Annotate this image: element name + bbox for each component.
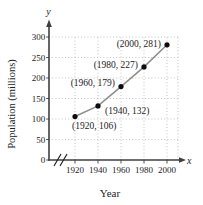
data-point bbox=[72, 114, 77, 119]
x-axis-title: Year bbox=[100, 187, 121, 199]
data-point bbox=[118, 84, 123, 89]
y-tick-label: 150 bbox=[32, 94, 46, 104]
data-point bbox=[141, 64, 146, 69]
y-tick-label: 0 bbox=[41, 155, 46, 165]
y-tick-label: 200 bbox=[32, 73, 46, 83]
point-label: (1920, 106) bbox=[72, 121, 116, 132]
y-tick-label: 300 bbox=[32, 32, 46, 42]
y-axis-arrowhead bbox=[46, 20, 52, 28]
y-axis-title: Population (millions) bbox=[6, 59, 18, 149]
x-tick-label: 1940 bbox=[89, 165, 108, 175]
y-tick-label: 50 bbox=[36, 135, 46, 145]
grid-layer bbox=[49, 37, 178, 160]
y-tick-label: 100 bbox=[32, 114, 46, 124]
point-label: (1960, 179) bbox=[71, 78, 115, 89]
point-label: (1980, 227) bbox=[94, 60, 138, 71]
data-point bbox=[164, 42, 169, 47]
point-label-layer: (1920, 106)(1940, 132)(1960, 179)(1980, … bbox=[71, 39, 161, 132]
x-axis-arrowhead bbox=[179, 157, 186, 163]
y-axis-letter: y bbox=[45, 6, 51, 17]
figure: 05010015020025030019201940196019802000 (… bbox=[0, 0, 203, 205]
x-axis-letter: x bbox=[186, 155, 192, 166]
x-tick-label: 1960 bbox=[112, 165, 131, 175]
point-label: (2000, 281) bbox=[117, 39, 161, 50]
x-tick-label: 1980 bbox=[135, 165, 154, 175]
tick-layer: 05010015020025030019201940196019802000 bbox=[32, 32, 177, 175]
point-label: (1940, 132) bbox=[105, 106, 149, 117]
population-chart-svg: 05010015020025030019201940196019802000 (… bbox=[0, 0, 203, 205]
x-tick-label: 1920 bbox=[66, 165, 85, 175]
data-point bbox=[95, 103, 100, 108]
y-tick-label: 250 bbox=[32, 53, 46, 63]
x-tick-label: 2000 bbox=[158, 165, 177, 175]
